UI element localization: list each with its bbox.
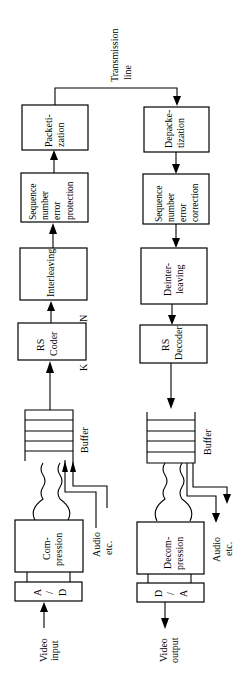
audio-line-2 [193, 463, 227, 495]
arrow-down-icon [168, 315, 176, 325]
audio-line-1 [187, 463, 216, 514]
audio-line-1 [65, 460, 96, 528]
svg-text:Buffer: Buffer [79, 426, 90, 453]
deinterleaving-block: Deinter- leaving [141, 248, 207, 304]
arrow-up-icon [47, 301, 55, 311]
video-transmission-block-diagram: Transmission line Packeti- zation Sequen… [0, 0, 244, 687]
svg-text:A: A [32, 588, 43, 596]
svg-text:D: D [57, 589, 68, 596]
arrow-down-icon [161, 618, 169, 629]
depacketization-block: Depacke- tization [144, 107, 209, 152]
svg-text:Packeti-: Packeti- [43, 114, 54, 147]
k-label: K [78, 363, 89, 371]
decompression-block: Decom- pression [137, 522, 204, 574]
sequence-number-protection-block: Sequence number error protection [21, 173, 88, 222]
svg-text:D: D [153, 590, 164, 597]
arrow-down-icon [173, 96, 181, 106]
transmission-line: Transmission line [55, 28, 181, 106]
arrow-up-icon [40, 602, 48, 612]
video-input-label: Video [38, 638, 49, 662]
svg-text:/: / [44, 591, 55, 594]
arrow-down-icon [172, 164, 180, 174]
svg-text:input: input [49, 640, 60, 661]
transmission-label-2: line [122, 64, 133, 80]
wavy-connector [155, 463, 192, 521]
arrow-up-icon [62, 461, 68, 472]
svg-text:RS: RS [160, 339, 171, 351]
buffer-block: Buffer [147, 412, 213, 463]
etc-label: etc. [103, 541, 114, 555]
svg-text:Coder: Coder [48, 331, 59, 356]
arrow-up-icon [46, 361, 54, 373]
rs-decoder-block: RS Decoder [140, 325, 207, 363]
arrow-up-icon [50, 150, 58, 160]
svg-text:correction: correction [190, 183, 200, 222]
svg-text:number: number [40, 190, 50, 220]
svg-text:Interleaving: Interleaving [45, 249, 56, 297]
svg-text:Com-: Com- [41, 537, 52, 560]
svg-text:protection: protection [65, 181, 75, 220]
video-output-label: Video [158, 638, 169, 662]
svg-text:pression: pression [53, 533, 64, 566]
svg-text:pression: pression [174, 537, 185, 570]
svg-text:number: number [166, 192, 176, 222]
svg-text:Depacke-: Depacke- [163, 110, 174, 148]
svg-text:/: / [165, 592, 176, 595]
svg-text:Sequence: Sequence [154, 186, 164, 222]
svg-text:error: error [178, 203, 188, 222]
svg-text:Deinter-: Deinter- [162, 263, 173, 296]
svg-text:tization: tization [175, 118, 186, 148]
arrow-down-icon [223, 494, 231, 504]
packetization-block: Packeti- zation [22, 105, 88, 150]
sequence-number-correction-block: Sequence number error correction [143, 174, 209, 224]
arrow-down-icon [167, 398, 175, 409]
transmission-label-1: Transmission [109, 28, 120, 82]
arrow-down-icon [172, 238, 180, 248]
svg-text:zation: zation [55, 123, 66, 147]
buffer-block: Buffer [25, 410, 90, 461]
interleaving-block: Interleaving [20, 248, 87, 300]
ad-converter-block: A / D [15, 582, 82, 601]
arrow-down-icon [212, 513, 220, 523]
arrow-up-icon [70, 461, 76, 472]
n-label: N [78, 315, 89, 322]
audio-line-2 [73, 460, 107, 508]
svg-text:Decom-: Decom- [162, 537, 173, 569]
svg-text:leaving: leaving [174, 265, 185, 294]
svg-text:RS: RS [35, 339, 46, 351]
audio-label: Audio [211, 537, 222, 562]
svg-text:error: error [52, 201, 62, 220]
arrow-up-icon [49, 223, 57, 234]
etc-label: etc. [223, 542, 234, 556]
svg-text:Buffer: Buffer [202, 428, 213, 455]
svg-text:A: A [178, 589, 189, 597]
compression-block: Com- pression [15, 520, 83, 572]
svg-text:Decoder: Decoder [173, 325, 184, 360]
da-converter-block: D / A [137, 583, 204, 602]
rs-coder-block: RS Coder N K [18, 315, 89, 371]
audio-label: Audio [91, 532, 102, 557]
svg-text:Sequence: Sequence [28, 184, 38, 220]
svg-text:output: output [169, 637, 180, 663]
